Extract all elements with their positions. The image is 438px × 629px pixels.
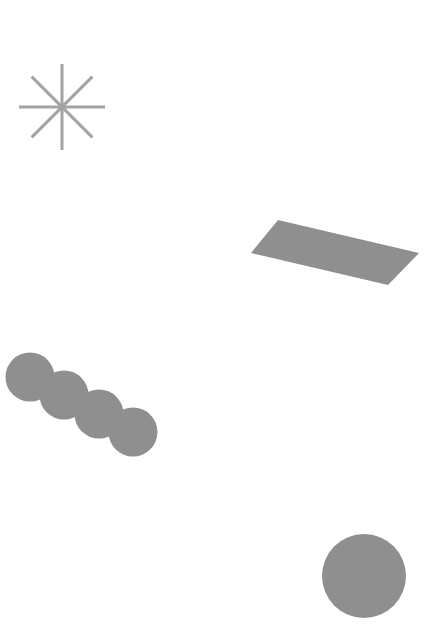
shapes-canvas: [0, 0, 438, 629]
large-circle-shape: [322, 534, 406, 618]
chain-circle: [109, 408, 158, 457]
parallelogram-shape: [251, 220, 419, 285]
asterisk-star-shape: [19, 64, 105, 150]
overlapping-circles-chain: [6, 353, 158, 457]
